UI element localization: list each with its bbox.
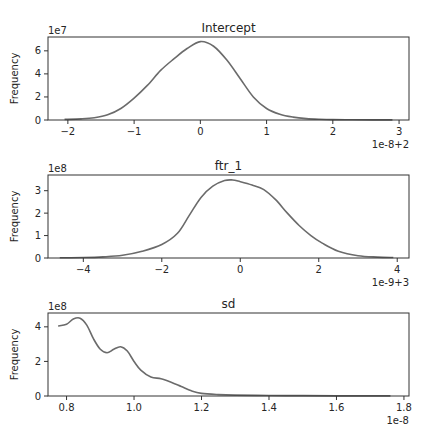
x-tick-label: −2 — [154, 264, 169, 275]
axes-frame — [48, 175, 409, 258]
y-tick-label: 4 — [35, 68, 41, 79]
x-tick-label: 2 — [330, 126, 336, 137]
x-tick-label: 1.8 — [396, 402, 412, 413]
subplot-intercept: Intercept−2−1012302461e71e-8+2Frequency — [9, 21, 409, 150]
y-tick-label: 4 — [35, 321, 41, 332]
subplot-title: Intercept — [201, 21, 256, 35]
x-offset-label: 1e-8 — [387, 415, 410, 426]
x-offset-label: 1e-8+2 — [372, 139, 409, 150]
x-tick-label: 0.8 — [59, 402, 75, 413]
x-tick-label: 1.0 — [126, 402, 142, 413]
subplot-sd: sd0.81.01.21.41.61.80241e81e-8Frequency — [9, 297, 412, 426]
y-tick-label: 0 — [35, 391, 41, 402]
y-scale-label: 1e8 — [48, 301, 67, 312]
y-axis-label: Frequency — [9, 191, 20, 243]
y-tick-label: 3 — [35, 185, 41, 196]
x-tick-label: 2 — [316, 264, 322, 275]
figure: Intercept−2−1012302461e71e-8+2Frequencyf… — [0, 0, 429, 438]
x-offset-label: 1e-9+3 — [372, 277, 409, 288]
y-tick-label: 6 — [35, 45, 41, 56]
subplot-title: ftr_1 — [215, 159, 242, 173]
y-scale-label: 1e8 — [48, 163, 67, 174]
x-tick-label: 1 — [263, 126, 269, 137]
y-tick-label: 1 — [35, 230, 41, 241]
density-curve — [58, 318, 390, 396]
x-tick-label: 1.2 — [194, 402, 210, 413]
x-tick-label: 1.6 — [329, 402, 345, 413]
x-tick-label: 3 — [396, 126, 402, 137]
density-curve — [65, 42, 393, 120]
y-axis-label: Frequency — [9, 53, 20, 105]
x-tick-label: 1.4 — [261, 402, 277, 413]
axes-frame — [48, 37, 409, 120]
x-tick-label: 0 — [237, 264, 243, 275]
y-tick-label: 0 — [35, 253, 41, 264]
x-tick-label: −4 — [76, 264, 91, 275]
axes-frame — [48, 313, 409, 396]
x-tick-label: −2 — [60, 126, 75, 137]
y-axis-label: Frequency — [9, 329, 20, 381]
subplot-title: sd — [222, 297, 236, 311]
y-tick-label: 2 — [35, 91, 41, 102]
y-tick-label: 2 — [35, 208, 41, 219]
x-tick-label: −1 — [127, 126, 142, 137]
subplot-ftr-1: ftr_1−4−202401231e81e-9+3Frequency — [9, 159, 409, 288]
x-tick-label: 0 — [197, 126, 203, 137]
y-tick-label: 0 — [35, 115, 41, 126]
density-curve — [60, 180, 394, 258]
y-scale-label: 1e7 — [48, 25, 67, 36]
x-tick-label: 4 — [394, 264, 400, 275]
y-tick-label: 2 — [35, 356, 41, 367]
